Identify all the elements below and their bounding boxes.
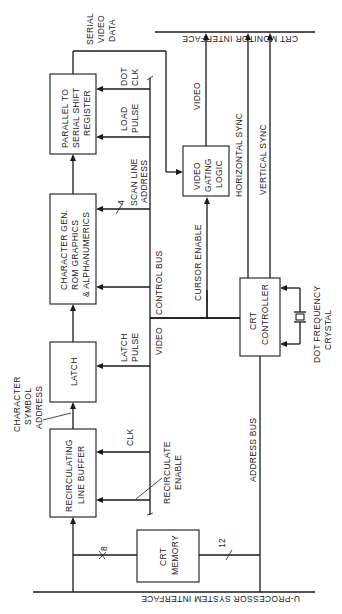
video-bus-label: VIDEO [154,327,164,355]
cursor-enable-arrow [204,197,210,204]
control-bus [96,76,162,515]
svg-text:CRT: CRT [248,312,258,330]
svg-text:LINE BUFFER: LINE BUFFER [76,445,86,504]
dot-clk-label: DOT [119,67,129,86]
load-pulse-label-2: PULSE [130,104,140,133]
crystal-label-2: CRYSTAL [323,309,333,350]
load-pulse-label: LOAD [119,107,129,131]
address-width-12-label: 12 [217,538,227,548]
svg-text:ADDRESS: ADDRESS [34,386,44,429]
svg-text:RECIRCULATING: RECIRCULATING [64,439,74,512]
latch-pulse-label: LATCH [119,333,129,362]
address-bus-label: ADDRESS BUS [248,418,258,482]
crt-controller-block: CRT CONTROLLER [240,278,280,356]
character-generator-block: CHARACTER GEN. ROM GRAPHICS & ALPHANUMER… [50,194,96,304]
crystal-label: DOT FREQUENCY [312,286,322,363]
recirculate-enable-label: RECIRCULATE [162,441,172,504]
svg-text:PARALLEL TO: PARALLEL TO [60,89,70,148]
svg-text:& ALPHANUMERICS: & ALPHANUMERICS [81,212,91,297]
crystal-icon [280,285,306,347]
svg-text:MEMORY: MEMORY [170,535,180,575]
svg-text:CHARACTER: CHARACTER [12,376,22,432]
control-bus-label: CONTROL BUS [154,251,164,315]
crt-monitor-interface-label: CRT MONITOR INTERFACE [182,34,298,44]
scan-line-width-label: 4 [116,200,126,205]
svg-text:LOGIC: LOGIC [214,160,224,188]
clk-label: CLK [125,429,135,446]
serial-video-data-label: SERIAL [85,13,95,45]
svg-text:REGISTER: REGISTER [82,90,92,136]
dot-clk-label-2: CLK [130,69,140,86]
crt-memory-block: CRT MEMORY [137,530,199,582]
serial-video-data-label-2: VIDEO [96,15,106,43]
svg-text:SYMBOL: SYMBOL [23,388,33,425]
svg-text:CRT: CRT [158,548,168,566]
data-width-8-label: 8 [99,546,109,551]
latch-block: LATCH [50,342,96,402]
vertical-sync-label: VERTICAL SYNC [258,124,268,195]
svg-text:SERIAL SHIFT: SERIAL SHIFT [71,88,81,148]
svg-text:CHARACTER GEN.: CHARACTER GEN. [59,210,69,290]
scan-line-address-label-2: ADDRESS [139,160,149,203]
horizontal-sync-label: HORIZONTAL SYNC [234,113,244,197]
svg-text:ROM GRAPHICS: ROM GRAPHICS [70,220,80,290]
cursor-enable-label: CURSOR ENABLE [193,224,203,301]
latch-pulse-label-2: PULSE [130,333,140,362]
svg-text:VIDEO: VIDEO [192,162,202,190]
crt-display-block-diagram: CRT MONITOR INTERFACE U-PROCESSOR SYSTEM… [0,0,342,614]
serial-video-data-label-3: DATA [107,19,117,42]
recirculate-enable-label-2: ENABLE [173,455,183,490]
svg-text:CONTROLLER: CONTROLLER [260,284,270,345]
line-buffer-block: RECIRCULATING LINE BUFFER [50,429,96,517]
shift-register-block: PARALLEL TO SERIAL SHIFT REGISTER [50,74,96,154]
video-out-label: VIDEO [192,82,202,110]
video-gating-logic-block: VIDEO GATING LOGIC [183,146,229,196]
svg-text:GATING: GATING [203,158,213,192]
processor-interface-label: U-PROCESSOR SYSTEM INTERFACE [141,594,300,604]
scan-line-address-label: SCAN LINE [129,158,139,206]
svg-text:LATCH: LATCH [69,357,79,386]
